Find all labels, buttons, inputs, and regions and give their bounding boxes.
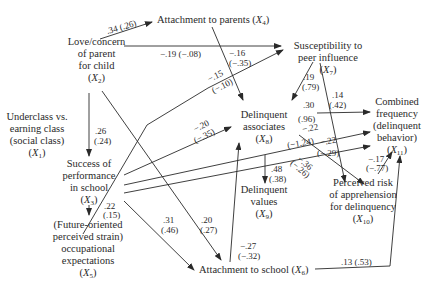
path-x7-x10: [320, 63, 345, 182]
node-x2-var: (X2): [59, 72, 134, 87]
path-x8-x11: [317, 112, 370, 113]
node-x1-line2: earning class: [0, 123, 74, 135]
node-x1-social-class: Underclass vs. earning class (social cla…: [0, 111, 74, 162]
coef-x6-x11: .13 (.53): [341, 257, 372, 267]
coef-x2-x3-b: (.24): [94, 136, 111, 146]
coef-x2-x3-a: .26: [95, 126, 106, 136]
node-x5-line4: expectations: [45, 255, 131, 267]
node-x2-line2: of parent: [59, 48, 134, 60]
node-x7-line2: peer influence: [283, 52, 373, 64]
node-x1-line3: (social class): [0, 135, 74, 147]
coef-x8-x11-a: .30: [303, 100, 314, 110]
coef-x7-x8-b: (.79): [302, 82, 319, 92]
node-x10-line1: Perceived risk: [318, 177, 408, 189]
node-x7-susceptibility: Susceptibility to peer influence (X7): [283, 40, 373, 79]
node-x11-line4: behavior): [364, 132, 429, 144]
node-x5-occupational-expectations: (Future-oriented perceived strain) occup…: [45, 219, 131, 282]
coef-x6-x8-b: (−.32): [238, 251, 260, 261]
coef-x4-x8-a: −.16: [229, 48, 245, 58]
coef-x7-x10-a: .14: [332, 90, 343, 100]
coef-x7-x10-b: (.42): [329, 100, 346, 110]
node-x2-love-concern: Love/concern of parent for child (X2): [59, 36, 134, 87]
coef-x7-x8-a: .19: [303, 72, 314, 82]
node-x5-line1: (Future-oriented: [45, 219, 131, 231]
node-x4-line1: Attachment to parents: [157, 14, 250, 25]
node-x11-delinquent-behavior: Combined frequency (delinquent behavior)…: [364, 96, 429, 159]
path-x3-x6: [124, 201, 194, 270]
node-x7-line1: Susceptibility to: [283, 40, 373, 52]
node-x9-var: (X9): [233, 208, 295, 223]
node-x10-line2: of apprehension: [318, 189, 408, 201]
node-x11-line2: frequency: [364, 108, 429, 120]
coef-x6-x8-a: −.27: [240, 241, 256, 251]
coef-x3-x6-b: (.46): [161, 225, 178, 235]
node-x8-line1: Delinquent: [233, 109, 295, 121]
node-x2-line3: for child: [59, 60, 134, 72]
node-x9-delinquent-values: Delinquent values (X9): [233, 184, 295, 223]
node-x3-line1: Success of: [53, 158, 125, 170]
node-x5-line3: occupational: [45, 243, 131, 255]
coef-x3-x11-lower-b: (−.29): [317, 148, 339, 158]
node-x9-line1: Delinquent: [233, 184, 295, 196]
coef-x10-x11-b: (−.77): [366, 163, 388, 173]
coef-x2-x6-a: .20: [201, 215, 212, 225]
node-x9-line2: values: [233, 196, 295, 208]
node-x8-line2: associates: [233, 121, 295, 133]
coef-x2-x7: −.19 (−.08): [160, 49, 201, 59]
node-x3-line2: performance: [53, 170, 125, 182]
node-x10-perceived-risk: Perceived risk of apprehension for delin…: [318, 177, 408, 228]
coef-x8-x9-b: (.38): [269, 174, 286, 184]
node-x11-line1: Combined: [364, 96, 429, 108]
coef-x3-x5-b: (.15): [103, 210, 120, 220]
node-x7-var: (X7): [283, 64, 373, 79]
coef-x8-x9-a: .48: [271, 164, 282, 174]
node-x10-line3: for delinquency: [318, 201, 408, 213]
coef-x3-x6-a: .31: [163, 215, 174, 225]
coef-x4-x8-b: (−.35): [229, 58, 251, 68]
node-x4-attachment-parents: Attachment to parents (X4): [157, 14, 269, 29]
node-x6-attachment-school: Attachment to school (X6): [199, 264, 308, 279]
node-x5-var: (X5): [45, 267, 131, 282]
node-x5-line2: perceived strain): [45, 231, 131, 243]
node-x10-var: (X10): [318, 213, 408, 228]
node-x6-line1: Attachment to school: [199, 264, 289, 275]
coef-x2-x6-b: (.27): [200, 225, 217, 235]
node-x11-line3: (delinquent: [364, 120, 429, 132]
node-x2-line1: Love/concern: [59, 36, 134, 48]
node-x3-line3: in school: [53, 182, 125, 194]
node-x1-line1: Underclass vs.: [0, 111, 74, 123]
